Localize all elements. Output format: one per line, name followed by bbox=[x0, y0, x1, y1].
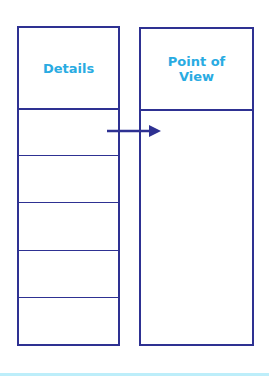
details-row-divider bbox=[19, 202, 118, 203]
point-of-view-column: Point of View bbox=[139, 27, 254, 346]
details-header: Details bbox=[19, 28, 118, 110]
arrow-right-icon bbox=[105, 124, 165, 138]
point-of-view-title-line1: Point of bbox=[168, 54, 226, 69]
details-row-divider bbox=[19, 250, 118, 251]
point-of-view-title-line2: View bbox=[179, 69, 214, 84]
details-column: Details bbox=[17, 26, 120, 346]
point-of-view-header: Point of View bbox=[141, 29, 252, 111]
details-title: Details bbox=[43, 61, 94, 76]
details-row-divider bbox=[19, 297, 118, 298]
details-row-divider bbox=[19, 155, 118, 156]
